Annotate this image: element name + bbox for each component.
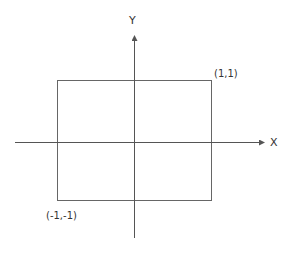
coordinate-diagram	[0, 0, 289, 257]
x-axis-label: X	[270, 137, 278, 148]
bottom-left-corner-label: (-1,-1)	[46, 211, 77, 221]
y-axis-label: Y	[129, 15, 136, 26]
top-right-corner-label: (1,1)	[214, 69, 238, 79]
